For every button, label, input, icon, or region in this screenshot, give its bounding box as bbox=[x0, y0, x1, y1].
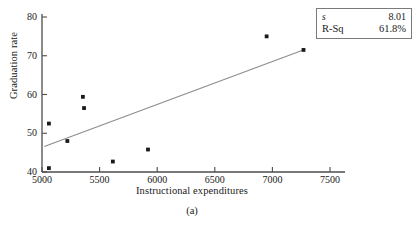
data-point bbox=[146, 148, 150, 152]
y-tick-label: 60 bbox=[15, 89, 37, 100]
x-tick-label: 7000 bbox=[252, 174, 292, 185]
figure-caption: (a) bbox=[142, 205, 242, 216]
data-point bbox=[302, 48, 306, 52]
data-point bbox=[265, 34, 269, 38]
x-tick-label: 5000 bbox=[22, 174, 62, 185]
data-point bbox=[82, 106, 86, 110]
x-tick-label: 6000 bbox=[137, 174, 177, 185]
statistics-legend: s 8.01 R-Sq 61.8% bbox=[316, 8, 412, 39]
axes bbox=[42, 14, 345, 172]
axis-ticks bbox=[42, 17, 330, 172]
data-point bbox=[47, 166, 51, 170]
x-tick-label: 5500 bbox=[80, 174, 120, 185]
data-points bbox=[47, 34, 305, 170]
y-axis-title: Graduation rate bbox=[8, 16, 19, 116]
legend-key-rsq: R-Sq bbox=[322, 23, 344, 35]
legend-value-rsq: 61.8% bbox=[379, 23, 406, 35]
x-axis-title: Instructional expenditures bbox=[92, 185, 292, 196]
y-tick-label: 70 bbox=[15, 50, 37, 61]
scatter-plot-figure: Graduation rate Instructional expenditur… bbox=[0, 0, 420, 225]
legend-key-s: s bbox=[322, 11, 326, 23]
legend-row-rsq: R-Sq 61.8% bbox=[322, 23, 406, 35]
legend-row-s: s 8.01 bbox=[322, 11, 406, 23]
data-point bbox=[111, 160, 115, 164]
data-point bbox=[81, 95, 85, 99]
data-point bbox=[47, 122, 51, 126]
data-point bbox=[65, 139, 69, 143]
x-tick-label: 7500 bbox=[310, 174, 350, 185]
y-tick-label: 80 bbox=[15, 11, 37, 22]
x-tick-label: 6500 bbox=[195, 174, 235, 185]
legend-value-s: 8.01 bbox=[389, 11, 407, 23]
y-tick-label: 50 bbox=[15, 127, 37, 138]
